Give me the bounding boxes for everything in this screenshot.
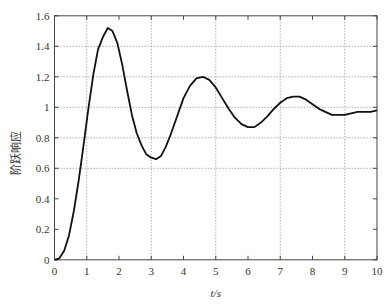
y-tick-label: 0.6 — [36, 162, 50, 174]
y-tick-label: 0.8 — [36, 132, 50, 144]
x-tick-labels: 012345678910 — [52, 265, 383, 277]
x-tick-label: 10 — [372, 265, 384, 277]
grid-lines — [55, 16, 378, 260]
x-tick-label: 5 — [213, 265, 219, 277]
y-axis-title: 阶跃响应 — [9, 131, 22, 175]
x-tick-label: 2 — [116, 265, 122, 277]
y-tick-labels: 00.20.40.60.811.21.41.6 — [36, 10, 50, 266]
y-tick-label: 1.2 — [36, 71, 50, 83]
x-tick-label: 9 — [342, 265, 348, 277]
y-tick-label: 1.6 — [36, 10, 50, 22]
x-tick-label: 0 — [52, 265, 58, 277]
x-tick-label: 4 — [181, 265, 187, 277]
step-response-curve — [55, 28, 378, 260]
x-tick-label: 6 — [245, 265, 251, 277]
y-tick-label: 1.4 — [36, 40, 50, 52]
x-tick-label: 3 — [149, 265, 155, 277]
x-tick-label: 1 — [84, 265, 90, 277]
step-response-chart: 012345678910 00.20.40.60.811.21.41.6 t/s… — [0, 0, 390, 306]
x-tick-label: 7 — [278, 265, 284, 277]
x-tick-label: 8 — [310, 265, 316, 277]
y-tick-label: 0.2 — [36, 223, 50, 235]
x-axis-title: t/s — [211, 287, 221, 299]
y-tick-label: 0.4 — [36, 193, 50, 205]
y-tick-label: 0 — [44, 254, 50, 266]
y-tick-label: 1 — [44, 101, 50, 113]
